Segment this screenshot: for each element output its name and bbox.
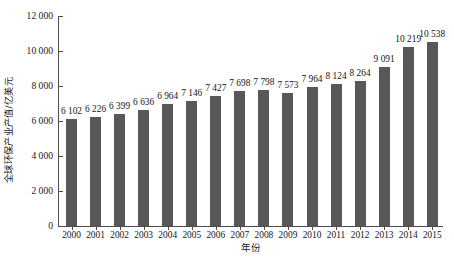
y-tick-label: 6 000 [31,116,53,126]
bar [427,42,438,226]
bar [403,47,414,226]
x-tick-label: 2000 [62,231,81,240]
bar-value-label: 10 538 [419,30,445,39]
bar-value-label: 7 146 [181,89,202,98]
bar-value-label: 8 264 [350,69,371,78]
y-tick-mark [59,121,63,122]
y-tick-mark [59,16,63,17]
bar [114,114,125,226]
bar-value-label: 6 226 [85,105,106,114]
x-tick-label: 2001 [86,231,105,240]
bar [138,110,149,226]
bar [331,84,342,226]
bar [66,119,77,226]
bar-value-label: 9 091 [374,55,395,64]
bar-value-label: 6 102 [61,107,82,116]
y-tick-label: 2 000 [31,186,53,196]
bar-value-label: 7 798 [253,78,274,87]
y-axis-title-text: 全球环保产业产值/亿美元 [1,77,15,183]
x-tick-label: 2005 [182,231,201,240]
x-tick-label: 2006 [206,231,225,240]
bar-value-label: 6 636 [133,98,154,107]
x-tick-label: 2013 [375,231,394,240]
x-tick-label: 2007 [230,231,249,240]
bar [210,96,221,226]
y-tick-label: 4 000 [31,151,53,161]
y-tick-mark [59,226,63,227]
x-tick-label: 2002 [110,231,129,240]
y-tick-mark [59,51,63,52]
bar-value-label: 8 124 [326,72,347,81]
x-axis-line [58,226,443,227]
bar [234,91,245,226]
y-tick-label: 0 [48,221,53,231]
bar [186,101,197,226]
x-tick-label: 2014 [399,231,418,240]
x-axis-title: 年份 [58,240,443,254]
x-tick-label: 2015 [423,231,442,240]
bar [90,117,101,226]
bar-value-label: 6 964 [157,92,178,101]
y-tick-label: 10 000 [27,46,53,56]
bar [282,93,293,226]
bar-value-label: 10 219 [395,35,421,44]
bar [162,104,173,226]
x-tick-label: 2010 [303,231,322,240]
x-tick-label: 2012 [351,231,370,240]
y-tick-mark [59,86,63,87]
bar-value-label: 7 964 [301,75,322,84]
x-tick-label: 2008 [255,231,274,240]
x-tick-label: 2004 [158,231,177,240]
x-tick-label: 2003 [134,231,153,240]
bar [379,67,390,226]
y-tick-mark [59,191,63,192]
y-axis-title: 全球环保产业产值/亿美元 [0,50,16,210]
bar [258,90,269,226]
y-tick-label: 12 000 [27,11,53,21]
bar [355,81,366,226]
bar-value-label: 7 698 [229,79,250,88]
y-tick-mark [59,156,63,157]
y-tick-label: 8 000 [31,81,53,91]
x-tick-label: 2009 [279,231,298,240]
x-tick-label: 2011 [327,231,345,240]
bar-value-label: 6 399 [109,102,130,111]
bar-value-label: 7 427 [205,84,226,93]
plot-area: 02 0004 0006 0008 00010 00012 000 6 1026… [58,16,443,227]
bar-chart-figure: 全球环保产业产值/亿美元 02 0004 0006 0008 00010 000… [0,0,454,272]
bar-value-label: 7 573 [277,81,298,90]
bar [307,87,318,226]
